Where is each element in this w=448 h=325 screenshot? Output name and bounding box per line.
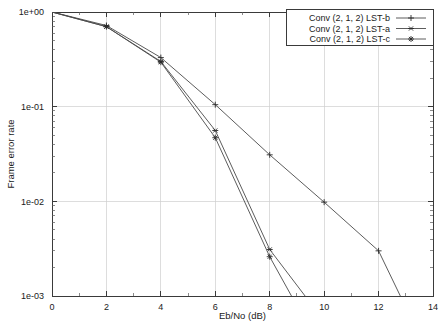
grid-lines: [52, 12, 433, 296]
x-tick-label: 0: [49, 302, 54, 312]
axis-labels: Eb/No (dB)Frame error rate: [5, 119, 266, 321]
x-tick-label: 6: [213, 302, 218, 312]
chart-legend: Conv (2, 1, 2) LST-bConv (2, 1, 2) LST-a…: [286, 9, 433, 45]
chart-figure: 1e+001e-011e-021e-03 02468101214 Eb/No (…: [0, 0, 448, 325]
x-tick-label: 10: [319, 302, 329, 312]
x-tick-label: 12: [374, 302, 384, 312]
y-tick-label: 1e-03: [21, 291, 44, 301]
y-tick-label: 1e-02: [21, 197, 44, 207]
series-line: [52, 12, 291, 296]
legend-label: Conv (2, 1, 2) LST-c: [309, 34, 390, 44]
series-2: [52, 12, 305, 296]
y-tick-label: 1e-01: [21, 102, 44, 112]
x-tick-label: 2: [104, 302, 109, 312]
x-tick-label: 4: [158, 302, 163, 312]
x-axis-ticks: 02468101214: [49, 12, 438, 312]
x-axis-title: Eb/No (dB): [219, 310, 266, 321]
y-axis-title: Frame error rate: [5, 119, 16, 188]
y-tick-label: 1e+00: [19, 7, 44, 17]
plot-frame: [52, 12, 433, 296]
series-line: [52, 12, 305, 296]
x-tick-label: 14: [428, 302, 438, 312]
legend-label: Conv (2, 1, 2) LST-a: [309, 24, 390, 34]
data-series-group: [52, 12, 400, 296]
series-3: [52, 12, 291, 296]
legend-label: Conv (2, 1, 2) LST-b: [309, 13, 390, 23]
x-tick-label: 8: [267, 302, 272, 312]
frame-error-rate-chart: 1e+001e-011e-021e-03 02468101214 Eb/No (…: [0, 0, 448, 325]
